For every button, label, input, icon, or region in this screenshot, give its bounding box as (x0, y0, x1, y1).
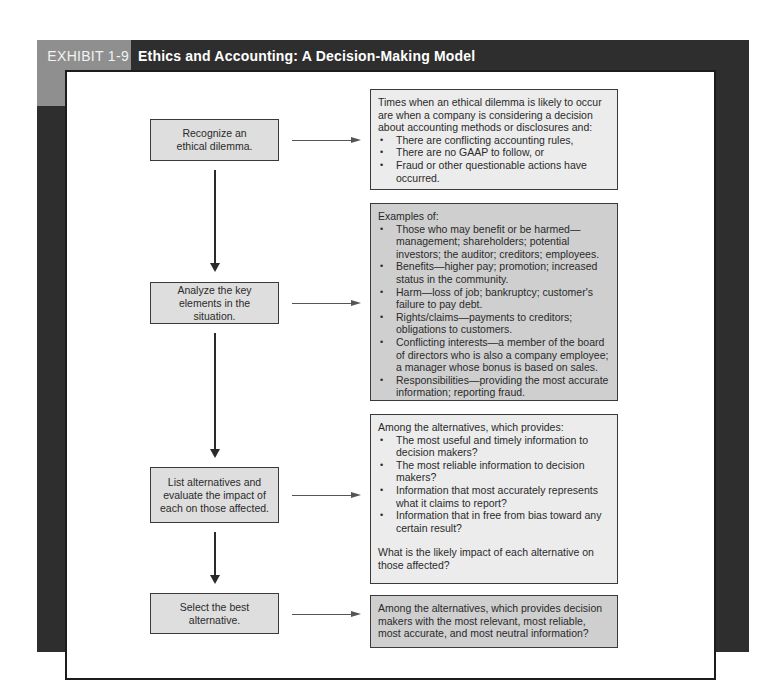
detail-recognize-dilemma: Times when an ethical dilemma is likely … (370, 89, 618, 190)
detail-intro: Examples of: (378, 210, 611, 223)
arrow-right-icon (351, 611, 361, 617)
step-recognize-dilemma: Recognize an ethical dilemma. (150, 119, 279, 161)
detail-bullet: There are conflicting accounting rules, (378, 134, 611, 147)
detail-intro: Among the alternatives, which provides d… (378, 602, 611, 640)
detail-bullet: Benefits—higher pay; promotion; increase… (378, 260, 611, 285)
arrow-down-icon (210, 449, 220, 458)
detail-bullet: There are no GAAP to follow, or (378, 146, 611, 159)
flow-line (214, 170, 216, 265)
flow-line (292, 614, 352, 615)
detail-bullet: Harm—loss of job; bankruptcy; customer's… (378, 286, 611, 311)
step-label: List alternatives and evaluate the impac… (157, 476, 272, 515)
detail-analyze-elements: Examples of: Those who may benefit or be… (370, 203, 618, 401)
detail-bullet: The most useful and timely information t… (378, 434, 611, 459)
detail-bullet: Rights/claims—payments to creditors; obl… (378, 311, 611, 336)
arrow-right-icon (351, 300, 361, 306)
flow-line (292, 495, 352, 496)
step-select-best: Select the best alternative. (150, 593, 279, 634)
flow-line (214, 333, 216, 451)
flow-line (292, 140, 352, 141)
detail-bullet: Fraud or other questionable actions have… (378, 159, 611, 184)
step-label: Select the best alternative. (169, 601, 261, 627)
detail-bullet: Conflicting interests—a member of the bo… (378, 336, 611, 374)
arrow-down-icon (210, 575, 220, 584)
detail-select-best: Among the alternatives, which provides d… (370, 595, 618, 648)
exhibit-title: Ethics and Accounting: A Decision-Making… (138, 40, 475, 71)
detail-bullets: Those who may benefit or be harmed—manag… (378, 223, 611, 399)
detail-intro: Among the alternatives, which provides: (378, 421, 611, 434)
detail-bullet: Responsibilities—providing the most accu… (378, 374, 611, 399)
detail-bullet: The most reliable information to decisio… (378, 459, 611, 484)
arrow-down-icon (210, 263, 220, 272)
detail-intro: Times when an ethical dilemma is likely … (378, 96, 611, 134)
detail-bullet: Those who may benefit or be harmed—manag… (378, 223, 611, 261)
step-label: Recognize an ethical dilemma. (169, 127, 261, 153)
detail-bullets: The most useful and timely information t… (378, 434, 611, 535)
arrow-right-icon (351, 492, 361, 498)
arrow-right-icon (351, 137, 361, 143)
detail-bullet: Information that in free from bias towar… (378, 509, 611, 534)
step-analyze-elements: Analyze the key elements in the situatio… (150, 282, 279, 324)
flow-line (214, 532, 216, 577)
detail-list-alternatives: Among the alternatives, which provides: … (370, 414, 618, 584)
detail-outro: What is the likely impact of each altern… (378, 546, 611, 571)
step-list-alternatives: List alternatives and evaluate the impac… (150, 467, 279, 523)
flow-line (292, 303, 352, 304)
step-label: Analyze the key elements in the situatio… (157, 284, 272, 323)
detail-bullets: There are conflicting accounting rules, … (378, 134, 611, 184)
detail-bullet: Information that most accurately represe… (378, 484, 611, 509)
exhibit-label: EXHIBIT 1-9 (37, 40, 131, 71)
